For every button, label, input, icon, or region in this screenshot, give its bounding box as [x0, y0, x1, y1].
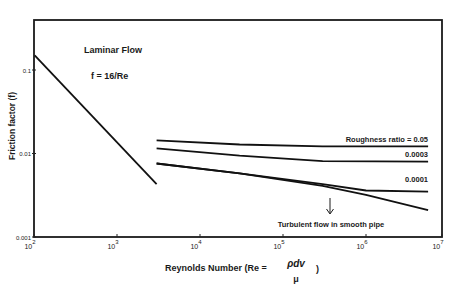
- svg-text:): ): [316, 264, 319, 274]
- arrow-down-icon: [327, 198, 334, 214]
- y-tick-label: 0.01: [19, 151, 31, 157]
- series-line-4: [157, 164, 429, 211]
- svg-text:ρdv: ρdv: [286, 258, 306, 269]
- friction-factor-chart: 0.10.010.001 102103104105106107 Friction…: [0, 0, 459, 304]
- y-axis-label: Friction factor (f): [7, 92, 17, 160]
- x-tick-label: 107: [432, 239, 444, 250]
- y-tick-label: 0.001: [16, 235, 32, 241]
- series-label-0.05: Roughness ratio = 0.05: [346, 135, 428, 144]
- series-line-2: [157, 148, 429, 161]
- smooth-pipe-label: Turbulent flow in smooth pipe: [278, 220, 385, 229]
- series-label-0.0003: 0.0003: [405, 150, 428, 159]
- x-tick-label: 106: [356, 239, 368, 250]
- svg-text:μ: μ: [293, 274, 299, 284]
- x-tick-label: 104: [190, 239, 202, 250]
- svg-text:Reynolds Number (Re =: Reynolds Number (Re =: [165, 263, 267, 273]
- x-axis-label: Reynolds Number (Re = ρdv μ ): [165, 258, 319, 284]
- x-tick-label: 103: [107, 239, 119, 250]
- x-tick-label: 102: [24, 239, 36, 250]
- x-tick-label: 105: [273, 239, 285, 250]
- laminar-flow-label: Laminar Flow: [84, 45, 143, 55]
- y-axis-ticks: 0.10.010.001: [16, 68, 36, 241]
- series-label-0.0001: 0.0001: [405, 175, 428, 184]
- laminar-formula-label: f = 16/Re: [91, 71, 128, 81]
- y-tick-label: 0.1: [23, 68, 32, 74]
